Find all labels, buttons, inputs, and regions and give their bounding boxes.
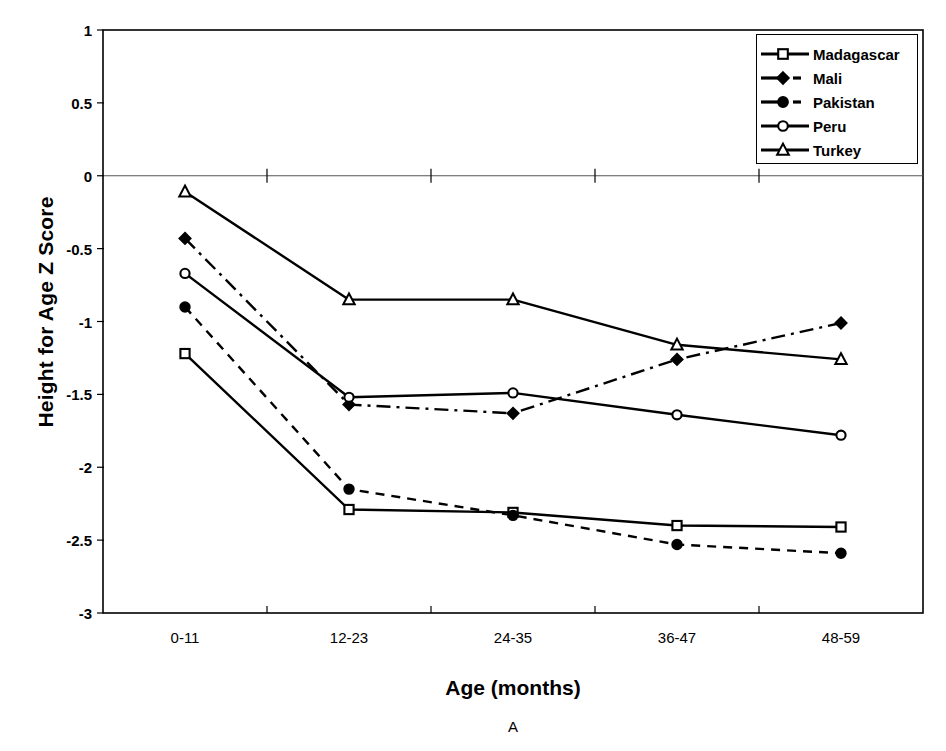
series-pakistan (180, 302, 846, 558)
legend-item-madagascar: Madagascar (757, 41, 919, 67)
legend: MadagascarMaliPakistanPeruTurkey (756, 34, 918, 164)
data-point-open-circle (672, 410, 681, 419)
legend-label: Peru (813, 119, 846, 134)
data-point-filled-circle (344, 484, 354, 494)
data-point-filled-circle (180, 302, 190, 312)
panel-label: A (103, 718, 923, 735)
x-tick-label: 0-11 (171, 629, 200, 646)
legend-marker-filled-circle (757, 90, 813, 114)
legend-item-turkey: Turkey (757, 137, 919, 163)
x-tick-label: 24-35 (494, 629, 532, 646)
x-tick-label: 48-59 (822, 629, 860, 646)
legend-item-mali: Mali (757, 65, 919, 91)
data-point-open-triangle (179, 186, 190, 197)
legend-item-peru: Peru (757, 113, 919, 139)
data-point-filled-circle (672, 539, 682, 549)
series-line (185, 192, 841, 360)
legend-label: Turkey (813, 143, 861, 158)
data-series-group (179, 186, 847, 559)
x-axis-label: Age (months) (103, 676, 923, 700)
data-point-filled-circle (836, 548, 846, 558)
legend-marker-open-square (757, 42, 813, 66)
chart-figure: Height for Age Z Score 10.50-0.5-1-1.5-2… (0, 0, 946, 751)
x-tick-label: 12-23 (330, 629, 368, 646)
data-point-open-circle (180, 269, 189, 278)
data-point-open-circle (344, 393, 353, 402)
legend-item-pakistan: Pakistan (757, 89, 919, 115)
series-turkey (179, 186, 846, 364)
legend-symbol (777, 72, 789, 84)
data-point-filled-circle (508, 510, 518, 520)
legend-label: Pakistan (813, 95, 875, 110)
data-point-open-square (836, 522, 845, 531)
series-line (185, 238, 841, 413)
data-point-open-square (672, 521, 681, 530)
legend-marker-open-triangle (757, 138, 813, 162)
legend-symbol (778, 49, 788, 59)
legend-symbol (778, 121, 788, 131)
data-point-open-circle (836, 431, 845, 440)
data-point-open-square (180, 349, 189, 358)
legend-label: Madagascar (813, 47, 900, 62)
legend-marker-open-circle (757, 114, 813, 138)
series-madagascar (180, 349, 845, 532)
legend-label: Mali (813, 71, 842, 86)
data-point-open-square (344, 505, 353, 514)
data-point-filled-diamond (507, 408, 519, 420)
x-tick-label: 36-47 (658, 629, 696, 646)
series-line (185, 354, 841, 527)
data-point-filled-diamond (671, 354, 683, 366)
data-point-filled-diamond (835, 317, 847, 329)
legend-symbol (778, 97, 788, 107)
data-point-open-circle (508, 388, 517, 397)
legend-marker-filled-diamond (757, 66, 813, 90)
